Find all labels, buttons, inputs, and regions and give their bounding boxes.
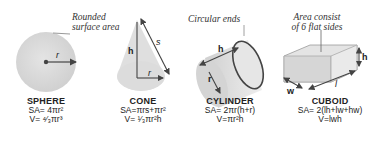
cone-shape bbox=[117, 19, 169, 91]
cone-s-label: s bbox=[156, 37, 161, 47]
annotation-circular: Circular ends bbox=[188, 15, 240, 25]
cylinder-label: CYLINDER SA= 2πr(h+r) V=πr²h bbox=[195, 97, 265, 124]
cuboid-l-label: l bbox=[335, 79, 337, 89]
annotation-area: Area consist of 6 flat sides bbox=[277, 13, 357, 33]
cuboid-label: CUBOID SA= 2(lh+lw+hw) V=lwh bbox=[290, 97, 370, 124]
sphere-shape bbox=[16, 32, 76, 92]
cuboid-h-label: h bbox=[362, 52, 368, 62]
cylinder-r-label: r bbox=[208, 74, 212, 84]
cuboid-shape bbox=[284, 30, 359, 89]
cylinder-h-label: h bbox=[218, 44, 224, 54]
cone-r-label: r bbox=[148, 68, 151, 78]
cone-h-label: h bbox=[128, 46, 134, 56]
cuboid-w-label: w bbox=[287, 86, 294, 96]
sphere-label: SPHERE SA= 4πr² V= ⁴⁄₃πr³ bbox=[20, 97, 72, 124]
sphere-r-label: r bbox=[56, 50, 59, 60]
annotation-rounded: Rounded surface area bbox=[72, 13, 119, 33]
cone-label: CONE SA=πrs+πr² V= ¹⁄₃πr²h bbox=[113, 97, 173, 124]
